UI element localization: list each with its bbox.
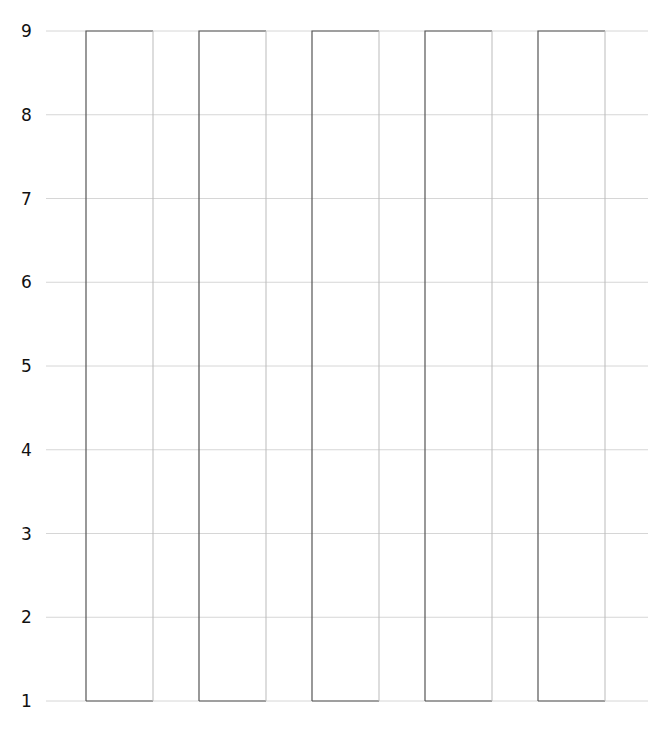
gridlines (46, 31, 648, 701)
y-tick-label: 1 (21, 691, 32, 711)
y-tick-label: 2 (21, 607, 32, 627)
y-tick-label: 3 (21, 524, 32, 544)
y-tick-label: 7 (21, 189, 32, 209)
y-tick-label: 9 (21, 21, 32, 41)
y-axis-tick-labels: 123456789 (21, 21, 32, 711)
bar-chart: 123456789 (0, 0, 648, 749)
y-tick-label: 6 (21, 272, 32, 292)
y-tick-label: 8 (21, 105, 32, 125)
y-tick-label: 4 (21, 440, 32, 460)
y-tick-label: 5 (21, 356, 32, 376)
